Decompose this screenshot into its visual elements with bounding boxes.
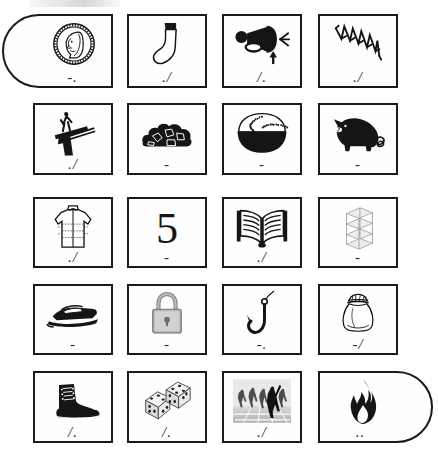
card-mark: /. bbox=[224, 70, 300, 84]
padlock-icon bbox=[129, 290, 205, 338]
card-mark: ./ bbox=[320, 70, 396, 84]
speedboat-icon bbox=[35, 290, 111, 338]
card-mark: - bbox=[129, 250, 205, 264]
card-mark: - bbox=[35, 337, 111, 351]
picture-card-sock[interactable]: ./ bbox=[127, 14, 207, 88]
diving-board-icon bbox=[35, 109, 111, 157]
card-mark: ./ bbox=[129, 70, 205, 84]
spring-coil-icon bbox=[320, 20, 396, 68]
picture-card-dice[interactable]: /. bbox=[127, 371, 207, 443]
card-mark: ./ bbox=[35, 250, 111, 264]
picture-card-boot[interactable]: /. bbox=[33, 371, 113, 443]
picture-card-bowl-of-rice[interactable]: - bbox=[222, 103, 302, 175]
sack-bag-icon bbox=[320, 290, 396, 338]
header-smudge bbox=[30, 0, 120, 7]
flame-icon bbox=[318, 377, 431, 425]
picture-card-drawstring-bag[interactable]: -/ bbox=[318, 284, 398, 355]
card-mark: ./ bbox=[224, 425, 300, 439]
picture-card-shelving-unit[interactable]: - bbox=[318, 197, 398, 268]
coal-pile-icon bbox=[129, 109, 205, 157]
picture-card-open-book[interactable]: ./ bbox=[222, 197, 302, 268]
runners-icon bbox=[224, 377, 300, 425]
picture-card-speedboat[interactable]: - bbox=[33, 284, 113, 355]
sock-icon bbox=[129, 20, 205, 68]
rice-bowl-icon bbox=[224, 109, 300, 157]
picture-card-runners-on-track[interactable]: ./ bbox=[222, 371, 302, 443]
picture-card-jacket[interactable]: ./ bbox=[33, 197, 113, 268]
air-horn-icon bbox=[224, 20, 300, 68]
fish-hook-icon bbox=[224, 290, 300, 338]
picture-card-5[interactable]: 5 - bbox=[127, 197, 207, 268]
card-mark: - bbox=[129, 157, 205, 171]
picture-card-fish-hook[interactable]: -. bbox=[222, 284, 302, 355]
boot-icon bbox=[35, 377, 111, 425]
card-mark: -. bbox=[34, 70, 111, 84]
card-mark: ./ bbox=[35, 157, 111, 171]
picture-card-flame[interactable]: .. bbox=[318, 371, 433, 443]
picture-card-diving-board[interactable]: ./ bbox=[33, 103, 113, 175]
picture-card-spring[interactable]: ./ bbox=[318, 14, 398, 88]
card-mark: - bbox=[320, 250, 396, 264]
open-book-icon bbox=[224, 203, 300, 251]
card-mark: -. bbox=[224, 337, 300, 351]
jacket-icon bbox=[35, 203, 111, 251]
card-mark: -/ bbox=[320, 337, 396, 351]
card-mark: - bbox=[224, 157, 300, 171]
worksheet-sheet: -. ./ /. ./ ./ bbox=[0, 0, 438, 456]
card-mark: - bbox=[129, 337, 205, 351]
dice-icon bbox=[129, 377, 205, 425]
picture-card-coin[interactable]: -. bbox=[2, 14, 113, 88]
picture-card-padlock[interactable]: - bbox=[127, 284, 207, 355]
pig-icon bbox=[320, 109, 396, 157]
number-five-icon: 5 bbox=[129, 203, 205, 251]
card-mark: ./ bbox=[224, 250, 300, 264]
picture-card-pig[interactable]: - bbox=[318, 103, 398, 175]
card-mark: - bbox=[320, 157, 396, 171]
shelf-rack-icon bbox=[320, 203, 396, 251]
svg-text:5: 5 bbox=[156, 204, 178, 252]
coin-icon bbox=[32, 20, 113, 68]
card-mark: .. bbox=[318, 425, 431, 439]
picture-card-air-horn[interactable]: /. bbox=[222, 14, 302, 88]
card-mark: /. bbox=[35, 425, 111, 439]
picture-card-coal[interactable]: - bbox=[127, 103, 207, 175]
card-mark: /. bbox=[129, 425, 205, 439]
